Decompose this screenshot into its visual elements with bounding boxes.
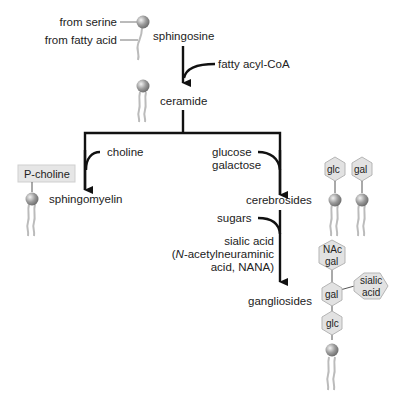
sphingosine-molecule-icon bbox=[120, 16, 150, 61]
choline-label: choline bbox=[107, 146, 143, 159]
galactose-label: galactose bbox=[212, 159, 261, 172]
fatty-acyl-input-arrow bbox=[184, 64, 215, 78]
glucose-label: glucose bbox=[212, 146, 252, 159]
acid-hex-text: acid bbox=[362, 286, 380, 299]
cereb-glc-text: glc bbox=[327, 163, 340, 176]
sugars-input-arrow bbox=[258, 218, 280, 234]
from-fatty-acid-label: from fatty acid bbox=[20, 34, 117, 47]
choline-input-arrow bbox=[86, 152, 100, 170]
gangliosides-label: gangliosides bbox=[248, 295, 312, 308]
sphingosine-label: sphingosine bbox=[153, 30, 214, 43]
cerebrosides-label: cerebrosides bbox=[246, 194, 312, 207]
from-serine-label: from serine bbox=[40, 16, 117, 29]
sphingomyelin-label: sphingomyelin bbox=[49, 193, 123, 206]
gang-glc-text: glc bbox=[326, 317, 339, 330]
cereb-gal-text: gal bbox=[354, 163, 367, 176]
glucose-input-arrow bbox=[258, 152, 280, 170]
nana-label: acid, NANA) bbox=[150, 261, 274, 274]
sialic-acid-label: sialic acid bbox=[150, 235, 274, 248]
ceramide-label: ceramide bbox=[160, 95, 207, 108]
ceramide-molecule-icon bbox=[137, 80, 150, 123]
sugars-label: sugars bbox=[217, 212, 252, 225]
n-acetylneuraminic-label: (N-acetylneuraminic bbox=[150, 248, 274, 261]
p-choline-label: P-choline bbox=[24, 168, 70, 181]
gang-gal-text: gal bbox=[325, 288, 338, 301]
fatty-acyl-coa-label: fatty acyl-CoA bbox=[218, 58, 290, 71]
nac-gal-text: gal bbox=[325, 255, 338, 268]
